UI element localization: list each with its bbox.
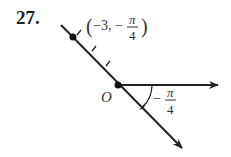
tick-marks [77,30,110,66]
svg-text:−: − [153,91,161,106]
point-dot [70,34,77,41]
terminal-ray [61,25,182,148]
angle-label: − π 4 [153,85,176,117]
svg-text:−3,: −3, [93,18,111,33]
origin-label: O [101,89,112,105]
svg-text:−: − [115,18,123,33]
svg-text:π: π [167,85,174,100]
polar-diagram: ( −3, − π 4 ) O − π 4 [0,0,231,157]
svg-text:4: 4 [167,102,174,117]
svg-text:(: ( [86,15,93,38]
svg-text:): ) [141,15,148,38]
point-label: ( −3, − π 4 ) [86,12,148,43]
svg-text:π: π [129,12,136,27]
origin-dot [115,82,122,89]
svg-text:4: 4 [129,28,136,43]
